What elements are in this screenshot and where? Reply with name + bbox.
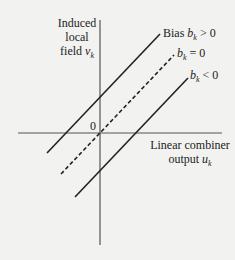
label-bias-zero: bk = 0	[177, 46, 205, 65]
y-label-line2: local	[55, 30, 99, 44]
x-label-line2: output uk	[145, 152, 235, 171]
label-bias-negative: bk < 0	[190, 68, 218, 87]
x-label-line1: Linear combiner	[145, 138, 235, 152]
x-axis-label: Linear combiner output uk	[145, 138, 235, 171]
label-bias-positive: Bias bk > 0	[163, 26, 216, 45]
y-label-line3: field vk	[55, 44, 99, 63]
y-axis-label: Induced local field vk	[55, 16, 99, 63]
origin-label: 0	[90, 119, 96, 133]
y-label-line1: Induced	[55, 16, 99, 30]
